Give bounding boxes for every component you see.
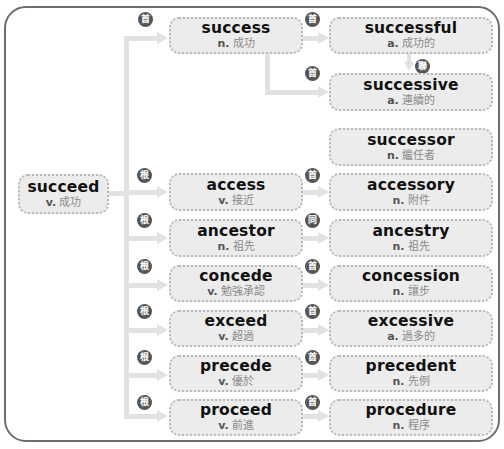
word-definition: n.附件 bbox=[392, 194, 429, 208]
connector-proceed-procedure bbox=[302, 414, 319, 419]
same-badge-icon: 同 bbox=[305, 213, 320, 228]
word-definition: a.過多的 bbox=[387, 330, 435, 344]
connector-to-concede bbox=[124, 283, 158, 288]
word-definition: v.超過 bbox=[218, 330, 253, 344]
root-badge-icon: 根 bbox=[137, 168, 152, 183]
word-definition: v.成功 bbox=[46, 196, 81, 210]
word-text: precedent bbox=[366, 358, 457, 375]
head-badge-icon: 首 bbox=[305, 66, 320, 81]
head-badge-icon: 首 bbox=[305, 12, 320, 27]
connector-to-precede bbox=[124, 373, 158, 378]
root-badge-icon: 根 bbox=[137, 304, 152, 319]
arrow-icon bbox=[157, 32, 168, 44]
head-badge-icon: 首 bbox=[305, 259, 320, 274]
arrow-down-icon bbox=[404, 62, 414, 71]
connector-precede-precedent bbox=[302, 373, 319, 378]
arrow-icon bbox=[318, 279, 329, 291]
word-node-ancestry: ancestry n.祖先 bbox=[329, 219, 493, 257]
connector-trunk bbox=[124, 36, 129, 418]
word-definition: v.接近 bbox=[218, 194, 253, 208]
word-node-precedent: precedent n.先例 bbox=[329, 355, 493, 392]
head-badge-icon: 首 bbox=[138, 12, 153, 27]
word-node-proceed: proceed v.前進 bbox=[169, 399, 303, 436]
connector-to-exceed bbox=[124, 328, 158, 333]
word-definition: n.讓步 bbox=[392, 285, 429, 299]
word-node-access: access v.接近 bbox=[169, 173, 303, 211]
word-node-successor: successor n.繼任者 bbox=[329, 128, 493, 166]
head-badge-icon: 首 bbox=[305, 395, 320, 410]
word-definition: n.繼任者 bbox=[387, 149, 435, 163]
word-text: ancestry bbox=[372, 223, 449, 240]
word-node-accessory: accessory n.附件 bbox=[329, 173, 493, 211]
head-badge-icon: 首 bbox=[305, 168, 320, 183]
word-text: precede bbox=[200, 358, 272, 375]
word-definition: v.勉強承認 bbox=[207, 285, 264, 299]
arrow-icon bbox=[318, 86, 329, 98]
connector-success-successive-h bbox=[265, 90, 319, 95]
word-definition: a.連續的 bbox=[387, 94, 435, 108]
word-definition: a.成功的 bbox=[387, 37, 435, 51]
word-text: procedure bbox=[365, 402, 456, 419]
word-definition: n.成功 bbox=[217, 37, 254, 51]
word-node-exceed: exceed v.超過 bbox=[169, 310, 303, 347]
word-text: succeed bbox=[27, 179, 99, 196]
arrow-icon bbox=[157, 324, 168, 336]
connector-ancestor-ancestry bbox=[302, 236, 319, 241]
word-node-precede: precede v.優於 bbox=[169, 355, 303, 392]
connector-to-success bbox=[124, 36, 158, 41]
word-node-procedure: procedure n.程序 bbox=[329, 399, 493, 436]
word-definition: n.先例 bbox=[392, 375, 429, 389]
arrow-icon bbox=[157, 279, 168, 291]
word-node-success: success n.成功 bbox=[169, 17, 303, 54]
arrow-icon bbox=[318, 369, 329, 381]
word-node-ancestor: ancestor n.祖先 bbox=[169, 219, 303, 257]
arrow-icon bbox=[157, 410, 168, 422]
word-text: successor bbox=[367, 132, 455, 149]
word-text: concede bbox=[199, 268, 273, 285]
arrow-icon bbox=[318, 186, 329, 198]
root-badge-icon: 根 bbox=[137, 259, 152, 274]
word-definition: n.祖先 bbox=[217, 240, 254, 254]
arrow-icon bbox=[157, 369, 168, 381]
connector-to-access bbox=[124, 190, 158, 195]
connector-to-ancestor bbox=[124, 236, 158, 241]
arrow-icon bbox=[157, 186, 168, 198]
root-badge-icon: 根 bbox=[137, 213, 152, 228]
link-badge-icon: 聯 bbox=[415, 59, 430, 74]
connector-success-successful bbox=[302, 36, 319, 41]
connector-exceed-excessive bbox=[302, 328, 319, 333]
connector-concede-concession bbox=[302, 283, 319, 288]
word-definition: v.優於 bbox=[218, 375, 253, 389]
word-node-concede: concede v.勉強承認 bbox=[169, 265, 303, 302]
head-badge-icon: 首 bbox=[305, 350, 320, 365]
arrow-icon bbox=[318, 324, 329, 336]
word-node-excessive: excessive a.過多的 bbox=[329, 310, 493, 347]
connector-access-accessory bbox=[302, 190, 319, 195]
root-badge-icon: 根 bbox=[137, 395, 152, 410]
word-definition: n.祖先 bbox=[392, 240, 429, 254]
word-text: exceed bbox=[204, 313, 267, 330]
word-text: ancestor bbox=[197, 223, 275, 240]
word-text: proceed bbox=[200, 402, 272, 419]
word-text: accessory bbox=[367, 177, 455, 194]
connector-success-successive-v bbox=[265, 53, 270, 93]
word-definition: v.前進 bbox=[218, 419, 253, 433]
connector-to-proceed bbox=[124, 414, 158, 419]
arrow-icon bbox=[318, 232, 329, 244]
root-badge-icon: 根 bbox=[137, 350, 152, 365]
word-definition: n.程序 bbox=[392, 419, 429, 433]
word-node-successful: successful a.成功的 bbox=[329, 17, 493, 54]
word-text: access bbox=[207, 177, 266, 194]
word-text: success bbox=[201, 20, 270, 37]
head-badge-icon: 首 bbox=[305, 304, 320, 319]
word-node-succeed: succeed v.成功 bbox=[18, 174, 109, 214]
word-text: concession bbox=[362, 268, 460, 285]
arrow-icon bbox=[157, 232, 168, 244]
word-node-concession: concession n.讓步 bbox=[329, 265, 493, 302]
arrow-icon bbox=[318, 32, 329, 44]
word-text: successful bbox=[365, 20, 458, 37]
word-text: successive bbox=[363, 77, 459, 94]
arrow-icon bbox=[318, 410, 329, 422]
word-node-successive: successive a.連續的 bbox=[329, 73, 493, 111]
word-text: excessive bbox=[368, 313, 454, 330]
